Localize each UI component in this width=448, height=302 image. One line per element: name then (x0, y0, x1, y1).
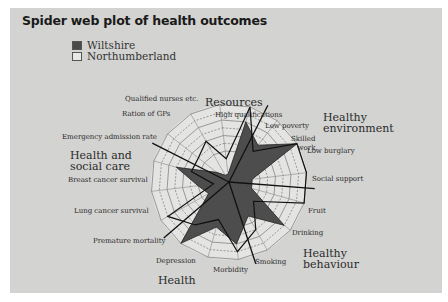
group-label-behaviour: Healthybehaviour (303, 248, 359, 270)
axis-label: Low burglary (307, 147, 355, 155)
group-label-resources: Resources (205, 97, 263, 108)
axis-label: Lung cancer survival (74, 207, 149, 215)
axis-label: Drinking (292, 229, 323, 237)
axis-label: Breast cancer survival (68, 176, 148, 184)
axis-label: High qualifications (215, 111, 282, 119)
axis-label: Ration of GPs (122, 110, 170, 118)
group-label-health-social-care: Health andsocial care (70, 150, 132, 172)
group-label-health: Health (158, 275, 196, 286)
axis-label: Qualified nurses etc. (125, 95, 198, 103)
axis-label: Smoking (255, 258, 286, 266)
axis-label: Emergency admission rate (62, 133, 157, 141)
axis-label: Fruit (308, 207, 326, 215)
axis-label: Social support (312, 175, 363, 183)
group-label-environment: Healthyenvironment (323, 112, 394, 134)
axis-label: Premature mortality (93, 237, 165, 245)
axis-label: Low poverty (265, 122, 309, 130)
radar-chart (0, 0, 448, 302)
axis-label: Morbidity (213, 266, 248, 274)
axis-label: Depression (156, 257, 196, 265)
